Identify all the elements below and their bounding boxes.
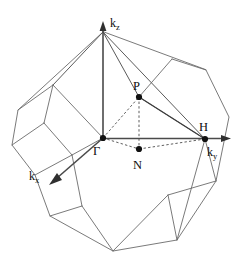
label-kx-axis: kx — [29, 169, 40, 185]
ky-axis-arrowhead — [221, 135, 231, 142]
edge-upper-right-to-outer — [172, 59, 206, 70]
edge-P-to-upper-right — [139, 59, 172, 97]
edge-apex-to-left-upper — [53, 32, 103, 85]
point-P-dot — [136, 94, 142, 100]
edge-H-to-right-bottom — [177, 139, 205, 240]
sym-line-gamma-to-P — [103, 97, 139, 138]
brillouin-zone-svg: Γ P N H kz ky kx — [0, 0, 236, 265]
edge-right-low-to-outer-far — [168, 181, 216, 195]
edge-left-mid-to-outer — [12, 123, 44, 145]
label-ky-subscript: y — [213, 151, 218, 161]
edge-left-mid-to-front-left — [44, 123, 72, 155]
edge-apex-to-H — [103, 32, 205, 139]
label-P: P — [133, 79, 140, 93]
label-N: N — [133, 158, 142, 172]
label-kx-subscript: x — [35, 175, 40, 185]
edge-front-low-to-outer — [50, 206, 82, 216]
point-H-dot — [202, 136, 208, 142]
labels-group: Γ P N H kz ky kx — [29, 16, 218, 185]
edge-right-low-to-outer-right — [168, 195, 177, 240]
sym-line-P-to-H — [139, 97, 205, 139]
point-gamma-dot — [100, 135, 106, 141]
label-H: H — [199, 120, 208, 134]
brillouin-zone-figure: Γ P N H kz ky kx — [0, 0, 236, 265]
edge-front-low-to-bottom — [82, 206, 113, 251]
sym-line-gamma-to-N — [103, 138, 139, 149]
edge-front-left-to-outer — [35, 155, 72, 175]
label-ky-axis: ky — [207, 145, 218, 161]
polyhedron-outline — [12, 32, 229, 251]
label-kz-subscript: z — [116, 22, 120, 32]
kz-axis-arrowhead — [100, 21, 107, 31]
polyhedron-outline-group — [12, 32, 229, 251]
sym-line-N-to-H — [139, 139, 205, 149]
point-N-dot — [136, 146, 142, 152]
label-kz-axis: kz — [110, 16, 120, 32]
label-gamma: Γ — [93, 144, 100, 158]
edge-gamma-to-left-upper — [53, 85, 103, 138]
